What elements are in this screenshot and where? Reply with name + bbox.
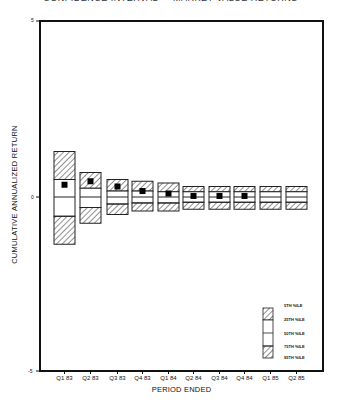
legend-label-75th: 75TH %ILE [284,344,305,349]
x-tick-label: Q2 85 [282,375,312,381]
box-q1-83 [54,152,75,245]
box-q4-83 [132,181,153,211]
actual-marker [242,193,248,199]
box-q1-84 [158,183,179,211]
box-q2-85 [286,187,307,210]
actual-marker [88,178,94,184]
box-q1-85 [260,187,281,210]
box-q4-84 [234,187,255,210]
y-axis-label: CUMULATIVE ANNUALIZED RETURN [10,115,19,275]
box-q3-83 [107,180,128,215]
box-q2-83 [80,173,101,224]
actual-marker [217,193,223,199]
actual-marker [191,193,197,199]
y-tick-bottom: -5 [28,368,32,374]
y-tick-zero: 0 [31,194,34,200]
x-tick-label: Q2 83 [76,375,106,381]
legend-swatch [263,308,273,358]
box-q3-84 [209,187,230,210]
actual-marker [115,184,121,190]
legend-label-5th: 5TH %ILE [284,303,302,308]
box-q2-84 [183,187,204,210]
legend-label-95th: 95TH %ILE [284,355,305,360]
actual-marker [166,191,172,197]
legend-label-25th: 25TH %ILE [284,317,305,322]
x-axis-label: PERIOD ENDED [40,385,323,394]
actual-marker [140,188,146,194]
y-tick-top: 5 [31,17,34,23]
actual-marker [62,182,68,188]
legend-label-50th: 50TH %ILE [284,331,305,336]
